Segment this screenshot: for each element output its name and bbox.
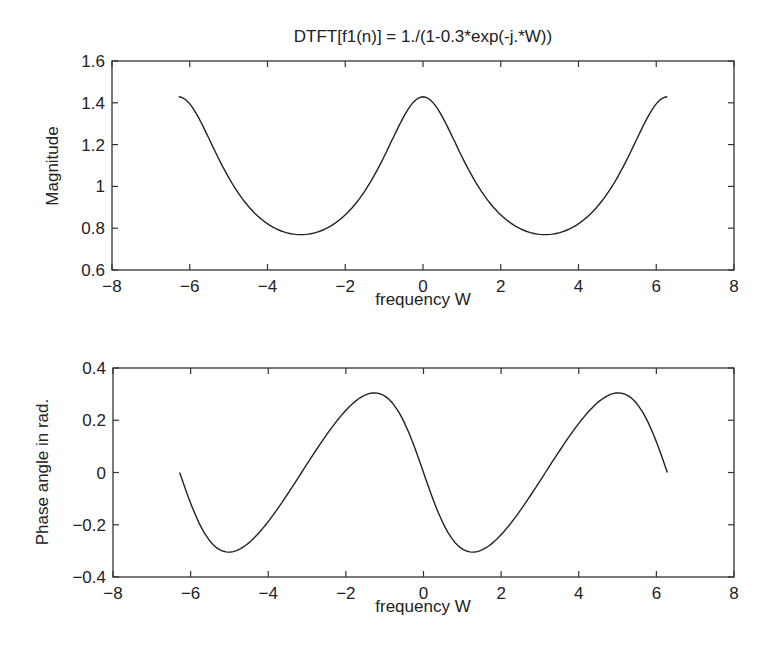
figure: DTFT[f1(n)] = 1./(1-0.3*exp(-j.*W)) −8−6… bbox=[0, 0, 772, 659]
y-tick-label: −0.2 bbox=[72, 516, 106, 535]
x-tick-label: 8 bbox=[729, 584, 738, 603]
y-tick-label: 1 bbox=[96, 177, 105, 196]
x-tick-label: 6 bbox=[652, 584, 661, 603]
y-tick-label: 1.4 bbox=[81, 94, 105, 113]
magnitude-axes: −8−6−4−2024680.60.811.21.41.6 bbox=[81, 52, 738, 296]
x-tick-label: −2 bbox=[336, 277, 355, 296]
phase-axes: −8−6−4−202468−0.4−0.200.20.4 bbox=[72, 359, 738, 603]
x-tick-label: −6 bbox=[181, 584, 200, 603]
x-tick-label: 8 bbox=[729, 277, 738, 296]
magnitude-xlabel: frequency W bbox=[375, 290, 470, 309]
x-tick-label: −2 bbox=[336, 584, 355, 603]
x-tick-label: −4 bbox=[258, 277, 277, 296]
x-tick-label: −6 bbox=[180, 277, 199, 296]
y-tick-label: 0.6 bbox=[81, 261, 105, 280]
x-tick-label: 4 bbox=[574, 277, 583, 296]
phase-xlabel: frequency W bbox=[375, 597, 470, 616]
y-tick-label: 0.4 bbox=[82, 359, 106, 378]
y-tick-label: 1.2 bbox=[81, 136, 105, 155]
phase-ylabel: Phase angle in rad. bbox=[33, 399, 52, 546]
x-tick-label: 2 bbox=[496, 277, 505, 296]
y-tick-label: 0.8 bbox=[81, 219, 105, 238]
magnitude-ylabel: Magnitude bbox=[43, 126, 62, 205]
y-tick-label: 1.6 bbox=[81, 52, 105, 71]
x-tick-label: 4 bbox=[574, 584, 583, 603]
x-tick-label: −8 bbox=[102, 277, 121, 296]
y-tick-label: 0.2 bbox=[82, 411, 106, 430]
y-tick-label: −0.4 bbox=[72, 568, 106, 587]
x-tick-label: 2 bbox=[496, 584, 505, 603]
y-tick-label: 0 bbox=[97, 464, 106, 483]
x-tick-label: −8 bbox=[103, 584, 122, 603]
chart-title: DTFT[f1(n)] = 1./(1-0.3*exp(-j.*W)) bbox=[294, 27, 552, 46]
x-tick-label: 6 bbox=[652, 277, 661, 296]
data-line bbox=[180, 393, 668, 552]
x-tick-label: −4 bbox=[259, 584, 278, 603]
data-line bbox=[179, 97, 668, 235]
